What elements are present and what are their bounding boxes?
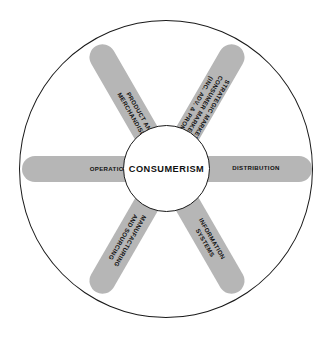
spoke-label-distribution: DISTRIBUTION [232,164,280,172]
hub-circle: CONSUMERISM [123,125,210,212]
spoke-label-information-systems: INFORMATION SYSTEMS [189,216,226,264]
consumerism-wheel-diagram: PRODUCT AND MERCHANDISING STRATEGIC MARK… [0,0,332,339]
spoke-label-line: DISTRIBUTION [232,164,280,172]
hub-label: CONSUMERISM [129,164,204,174]
spoke-label-manufacturing-and-sourcing: MANUFACTURING AND SOURCING [104,209,147,268]
